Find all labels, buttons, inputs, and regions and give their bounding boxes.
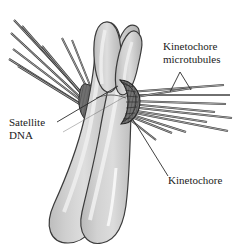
microtubule-right-4 <box>130 101 226 104</box>
label-kinetochore: Kinetochore <box>168 174 222 186</box>
figure-root: Kinetochore microtubules Satellite DNA K… <box>0 0 234 252</box>
label-satellite-dna-line1: Satellite <box>9 116 45 128</box>
label-kinetochore-microtubules-line1: Kinetochore <box>163 40 217 52</box>
label-satellite-dna-line2: DNA <box>9 129 33 141</box>
chromosome-diagram: Kinetochore microtubules Satellite DNA K… <box>0 0 234 252</box>
leader-line-kinetochore <box>132 118 168 176</box>
microtubule-bundle-right <box>128 85 232 140</box>
label-kinetochore-microtubules-line2: microtubules <box>163 53 220 65</box>
